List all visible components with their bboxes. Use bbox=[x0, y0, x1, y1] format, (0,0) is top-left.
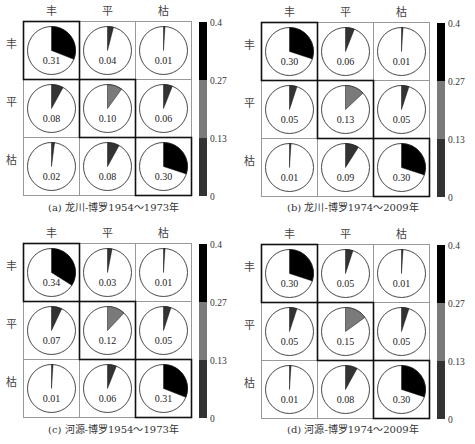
caption-c: (c) 河源-博罗1954～1973年 bbox=[48, 421, 179, 436]
matrix-cell: 0.01 bbox=[262, 361, 318, 419]
matrix-cell: 0.01 bbox=[374, 245, 430, 303]
cell-value: 0.30 bbox=[155, 171, 173, 182]
matrix-cell: 0.04 bbox=[80, 22, 136, 80]
cell-value: 0.31 bbox=[43, 55, 61, 66]
colorbar-tick: 0.4 bbox=[210, 18, 222, 28]
pie-matrix-d: 丰平枯丰平枯0.300.050.010.050.150.050.010.080.… bbox=[237, 222, 474, 444]
cell-value: 0.01 bbox=[281, 394, 299, 405]
cell-value: 0.05 bbox=[337, 278, 355, 289]
matrix-cell: 0.05 bbox=[262, 303, 318, 361]
cell-value: 0.08 bbox=[43, 113, 61, 124]
pie-matrix-b: 丰平枯丰平枯0.300.060.010.050.130.050.010.090.… bbox=[237, 0, 474, 222]
cell-value: 0.05 bbox=[393, 336, 411, 347]
cell-value: 0.01 bbox=[281, 172, 299, 183]
cell-value: 0.13 bbox=[337, 114, 355, 125]
colorbar-tick: 0.4 bbox=[448, 19, 460, 29]
cell-value: 0.05 bbox=[393, 114, 411, 125]
matrix-cell: 0.05 bbox=[374, 81, 430, 139]
row-label: 平 bbox=[6, 96, 17, 109]
cell-value: 0.07 bbox=[43, 335, 61, 346]
matrix-cell: 0.08 bbox=[24, 80, 80, 138]
matrix-cell: 0.01 bbox=[24, 360, 80, 418]
row-label: 枯 bbox=[244, 154, 255, 168]
colorbar-tick: 0.13 bbox=[448, 357, 465, 367]
cell-value: 0.06 bbox=[99, 393, 117, 404]
matrix-cell: 0.30 bbox=[136, 138, 192, 196]
pie-matrix-a: 丰平枯丰平枯0.310.040.010.080.100.060.020.080.… bbox=[0, 0, 237, 222]
cell-value: 0.01 bbox=[393, 56, 411, 67]
matrix-cell: 0.15 bbox=[318, 303, 374, 361]
cell-value: 0.01 bbox=[393, 278, 411, 289]
cell-value: 0.30 bbox=[393, 394, 411, 405]
col-label: 枯 bbox=[158, 4, 169, 18]
caption-d: (d) 河源-博罗1974～2009年 bbox=[287, 421, 419, 436]
panel-d: 丰平枯丰平枯0.300.050.010.050.150.050.010.080.… bbox=[237, 222, 474, 444]
caption-b: (b) 龙川-博罗1974～2009年 bbox=[287, 199, 419, 214]
cell-value: 0.03 bbox=[99, 277, 117, 288]
colorbar-tick: 0 bbox=[210, 192, 215, 202]
colorbar: 0.40.270.130 bbox=[437, 241, 465, 425]
matrix-cell: 0.06 bbox=[80, 360, 136, 418]
matrix-cell: 0.10 bbox=[80, 80, 136, 138]
col-label: 丰 bbox=[46, 227, 57, 240]
matrix-cell: 0.08 bbox=[318, 361, 374, 419]
colorbar-tick: 0.13 bbox=[210, 134, 227, 144]
row-label: 枯 bbox=[6, 153, 17, 167]
col-label: 枯 bbox=[158, 226, 169, 240]
matrix-cell: 0.03 bbox=[80, 244, 136, 302]
matrix-cell: 0.30 bbox=[374, 361, 430, 419]
cell-value: 0.05 bbox=[281, 114, 299, 125]
matrix-cell: 0.34 bbox=[24, 244, 80, 302]
col-label: 平 bbox=[340, 6, 351, 19]
matrix-cell: 0.12 bbox=[80, 302, 136, 360]
row-label: 丰 bbox=[244, 39, 255, 52]
pie-matrix-c: 丰平枯丰平枯0.340.030.010.070.120.050.010.060.… bbox=[0, 222, 237, 444]
col-label: 丰 bbox=[284, 228, 295, 241]
cell-value: 0.05 bbox=[155, 335, 173, 346]
matrix-cell: 0.02 bbox=[24, 138, 80, 196]
cell-value: 0.15 bbox=[337, 336, 355, 347]
cell-value: 0.02 bbox=[43, 171, 61, 182]
matrix-cell: 0.31 bbox=[136, 360, 192, 418]
row-label: 枯 bbox=[6, 375, 17, 389]
col-label: 丰 bbox=[284, 6, 295, 19]
col-label: 平 bbox=[102, 227, 113, 240]
colorbar: 0.40.270.130 bbox=[437, 19, 465, 203]
cell-value: 0.10 bbox=[99, 113, 117, 124]
panel-a: 丰平枯丰平枯0.310.040.010.080.100.060.020.080.… bbox=[0, 0, 237, 222]
matrix-cell: 0.06 bbox=[136, 80, 192, 138]
row-label: 枯 bbox=[244, 376, 255, 390]
cell-value: 0.34 bbox=[43, 277, 61, 288]
colorbar-tick: 0.27 bbox=[448, 299, 465, 309]
colorbar-tick: 0.27 bbox=[210, 76, 227, 86]
col-label: 平 bbox=[340, 228, 351, 241]
panel-c: 丰平枯丰平枯0.340.030.010.070.120.050.010.060.… bbox=[0, 222, 237, 444]
colorbar-tick: 0.27 bbox=[448, 77, 465, 87]
matrix-cell: 0.30 bbox=[374, 139, 430, 197]
cell-value: 0.06 bbox=[337, 56, 355, 67]
matrix-cell: 0.09 bbox=[318, 139, 374, 197]
matrix-cell: 0.07 bbox=[24, 302, 80, 360]
col-label: 平 bbox=[102, 5, 113, 18]
row-label: 丰 bbox=[6, 38, 17, 51]
matrix-cell: 0.01 bbox=[262, 139, 318, 197]
matrix-cell: 0.01 bbox=[136, 244, 192, 302]
colorbar-tick: 0.4 bbox=[210, 240, 222, 250]
cell-value: 0.30 bbox=[281, 278, 299, 289]
row-label: 平 bbox=[244, 319, 255, 332]
cell-value: 0.31 bbox=[155, 393, 173, 404]
cell-value: 0.01 bbox=[155, 55, 173, 66]
matrix-cell: 0.05 bbox=[262, 81, 318, 139]
panel-b: 丰平枯丰平枯0.300.060.010.050.130.050.010.090.… bbox=[237, 0, 474, 222]
colorbar-tick: 0 bbox=[210, 414, 215, 424]
colorbar-tick: 0.13 bbox=[448, 135, 465, 145]
col-label: 枯 bbox=[396, 5, 407, 19]
colorbar-tick: 0.4 bbox=[448, 241, 460, 251]
col-label: 丰 bbox=[46, 5, 57, 18]
col-label: 枯 bbox=[396, 227, 407, 241]
matrix-cell: 0.30 bbox=[262, 245, 318, 303]
cell-value: 0.04 bbox=[99, 55, 117, 66]
row-label: 丰 bbox=[6, 260, 17, 273]
row-label: 平 bbox=[244, 97, 255, 110]
matrix-cell: 0.13 bbox=[318, 81, 374, 139]
